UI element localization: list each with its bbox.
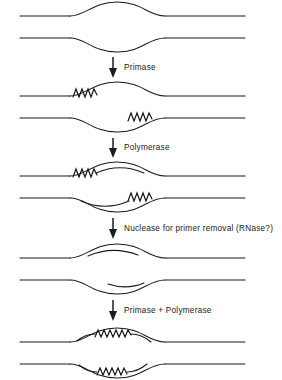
new-dna-bottom-strand — [81, 201, 129, 206]
rna-primer-bottom-middle — [97, 368, 127, 375]
bottom-bubble-arc — [70, 38, 165, 52]
rna-primer-top-left — [73, 89, 97, 97]
transition-3-nuclease: Nuclease for primer removal (RNase?) — [109, 218, 273, 239]
transition-2-polymerase: Polymerase — [109, 138, 170, 158]
down-arrow-icon — [109, 311, 117, 321]
transition-label-nuclease: Nuclease for primer removal (RNase?) — [124, 224, 273, 233]
step-5-reprimed-and-extended — [20, 328, 245, 378]
rna-primer-top-middle — [95, 330, 131, 337]
new-dna-top-strand — [88, 251, 138, 256]
transition-label-primase-polymerase: Primase + Polymerase — [124, 306, 212, 315]
new-dna-top-strand — [96, 168, 144, 173]
step-1-replication-bubble-open — [20, 2, 245, 52]
down-arrow-icon — [109, 148, 117, 158]
top-bubble-arc — [70, 328, 165, 342]
down-arrow-icon — [109, 68, 117, 78]
down-arrow-icon — [109, 229, 117, 239]
transition-4-primase-polymerase: Primase + Polymerase — [109, 300, 212, 321]
transition-label-polymerase: Polymerase — [124, 143, 170, 152]
new-dna-top-right-segment — [131, 334, 151, 342]
step-4-primers-removed — [20, 244, 245, 294]
dna-replication-diagram: Primase Polymerase Nuclease for primer r — [0, 0, 282, 380]
step-2-primers-laid-down — [20, 82, 245, 132]
new-dna-bottom-left-segment — [79, 365, 97, 372]
transition-1-primase: Primase — [109, 57, 156, 78]
bottom-bubble-arc — [70, 118, 165, 132]
new-dna-bottom-strand — [108, 283, 144, 287]
rna-primer-bottom-right — [128, 113, 152, 121]
top-bubble-arc — [70, 2, 165, 16]
rna-primer-bottom-right — [128, 193, 152, 201]
step-3-primers-extended — [20, 162, 245, 212]
rna-primer-top-left — [73, 169, 97, 177]
bottom-bubble-arc — [70, 364, 165, 378]
transition-label-primase: Primase — [124, 63, 156, 72]
bottom-bubble-arc — [70, 280, 165, 294]
